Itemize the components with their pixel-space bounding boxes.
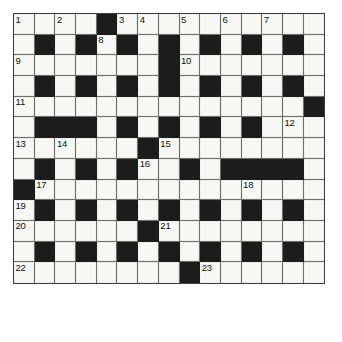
crossword-cell[interactable] — [283, 221, 304, 242]
crossword-cell[interactable] — [200, 97, 221, 118]
crossword-cell[interactable] — [35, 97, 56, 118]
crossword-cell[interactable] — [159, 159, 180, 180]
crossword-cell[interactable] — [304, 14, 325, 35]
crossword-cell[interactable] — [180, 76, 201, 97]
crossword-cell[interactable]: 23 — [200, 262, 221, 283]
crossword-cell[interactable] — [262, 76, 283, 97]
crossword-cell[interactable] — [180, 200, 201, 221]
crossword-cell[interactable]: 11 — [14, 97, 35, 118]
crossword-cell[interactable] — [35, 221, 56, 242]
crossword-cell[interactable] — [138, 242, 159, 263]
crossword-cell[interactable] — [138, 35, 159, 56]
crossword-cell[interactable] — [200, 55, 221, 76]
crossword-cell[interactable] — [35, 262, 56, 283]
crossword-cell[interactable] — [221, 97, 242, 118]
crossword-cell[interactable] — [283, 14, 304, 35]
crossword-cell[interactable] — [76, 97, 97, 118]
crossword-cell[interactable] — [55, 159, 76, 180]
crossword-cell[interactable]: 1 — [14, 14, 35, 35]
crossword-cell[interactable] — [180, 97, 201, 118]
crossword-cell[interactable] — [221, 55, 242, 76]
crossword-cell[interactable] — [221, 117, 242, 138]
crossword-cell[interactable] — [304, 200, 325, 221]
crossword-cell[interactable] — [242, 97, 263, 118]
crossword-cell[interactable]: 15 — [159, 138, 180, 159]
crossword-cell[interactable] — [97, 97, 118, 118]
crossword-cell[interactable] — [283, 97, 304, 118]
crossword-cell[interactable] — [138, 97, 159, 118]
crossword-cell[interactable]: 5 — [180, 14, 201, 35]
crossword-cell[interactable] — [76, 55, 97, 76]
crossword-cell[interactable] — [55, 221, 76, 242]
crossword-cell[interactable] — [55, 55, 76, 76]
crossword-cell[interactable]: 10 — [180, 55, 201, 76]
crossword-cell[interactable] — [117, 262, 138, 283]
crossword-cell[interactable]: 9 — [14, 55, 35, 76]
crossword-cell[interactable] — [180, 117, 201, 138]
crossword-cell[interactable] — [55, 262, 76, 283]
crossword-cell[interactable] — [304, 262, 325, 283]
crossword-cell[interactable] — [283, 262, 304, 283]
crossword-cell[interactable] — [97, 138, 118, 159]
crossword-cell[interactable] — [76, 221, 97, 242]
crossword-cell[interactable] — [117, 97, 138, 118]
crossword-cell[interactable] — [117, 221, 138, 242]
crossword-cell[interactable] — [304, 159, 325, 180]
crossword-cell[interactable] — [242, 138, 263, 159]
crossword-cell[interactable] — [262, 262, 283, 283]
crossword-cell[interactable] — [97, 262, 118, 283]
crossword-cell[interactable]: 2 — [55, 14, 76, 35]
crossword-cell[interactable] — [14, 242, 35, 263]
crossword-cell[interactable] — [35, 55, 56, 76]
crossword-cell[interactable] — [138, 200, 159, 221]
crossword-cell[interactable] — [262, 200, 283, 221]
crossword-cell[interactable] — [55, 180, 76, 201]
crossword-cell[interactable] — [221, 180, 242, 201]
crossword-cell[interactable] — [221, 35, 242, 56]
crossword-cell[interactable] — [117, 55, 138, 76]
crossword-cell[interactable] — [97, 55, 118, 76]
crossword-cell[interactable] — [97, 221, 118, 242]
crossword-cell[interactable] — [283, 138, 304, 159]
crossword-cell[interactable] — [138, 55, 159, 76]
crossword-cell[interactable] — [35, 138, 56, 159]
crossword-cell[interactable] — [55, 76, 76, 97]
crossword-cell[interactable] — [97, 117, 118, 138]
crossword-cell[interactable] — [221, 200, 242, 221]
crossword-cell[interactable] — [97, 159, 118, 180]
crossword-cell[interactable]: 3 — [117, 14, 138, 35]
crossword-cell[interactable]: 6 — [221, 14, 242, 35]
crossword-cell[interactable] — [138, 262, 159, 283]
crossword-cell[interactable] — [200, 221, 221, 242]
crossword-cell[interactable] — [221, 221, 242, 242]
crossword-cell[interactable] — [76, 14, 97, 35]
crossword-cell[interactable] — [304, 117, 325, 138]
crossword-cell[interactable] — [304, 55, 325, 76]
crossword-cell[interactable] — [262, 117, 283, 138]
crossword-cell[interactable] — [180, 35, 201, 56]
crossword-cell[interactable] — [76, 262, 97, 283]
crossword-cell[interactable] — [221, 262, 242, 283]
crossword-cell[interactable] — [200, 14, 221, 35]
crossword-cell[interactable] — [55, 242, 76, 263]
crossword-cell[interactable]: 21 — [159, 221, 180, 242]
crossword-cell[interactable] — [221, 242, 242, 263]
crossword-cell[interactable] — [304, 35, 325, 56]
crossword-cell[interactable] — [117, 180, 138, 201]
crossword-cell[interactable] — [262, 180, 283, 201]
crossword-cell[interactable] — [200, 180, 221, 201]
crossword-cell[interactable] — [97, 180, 118, 201]
crossword-cell[interactable]: 7 — [262, 14, 283, 35]
crossword-cell[interactable] — [242, 14, 263, 35]
crossword-cell[interactable]: 18 — [242, 180, 263, 201]
crossword-cell[interactable] — [180, 180, 201, 201]
crossword-cell[interactable] — [304, 138, 325, 159]
crossword-cell[interactable]: 17 — [35, 180, 56, 201]
crossword-cell[interactable]: 13 — [14, 138, 35, 159]
crossword-cell[interactable] — [138, 117, 159, 138]
crossword-cell[interactable] — [138, 76, 159, 97]
crossword-cell[interactable] — [221, 138, 242, 159]
crossword-cell[interactable] — [159, 97, 180, 118]
crossword-cell[interactable] — [14, 76, 35, 97]
crossword-cell[interactable] — [242, 221, 263, 242]
